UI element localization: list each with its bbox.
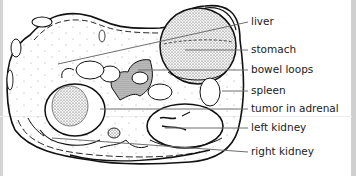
kidney-shape [147, 104, 223, 148]
label-liver: liver [251, 15, 274, 27]
label-tumor-in-adrenal: tumor in adrenal [251, 102, 339, 114]
stomach-shape [160, 8, 236, 84]
label-bowel-loops: bowel loops [251, 63, 313, 75]
label-spleen: spleen [251, 84, 286, 96]
anatomy-figure: liver stomach bowel loops spleen tumor i… [0, 0, 356, 176]
label-right-kidney: right kidney [251, 145, 314, 157]
label-left-kidney: left kidney [251, 121, 306, 133]
label-stomach: stomach [251, 43, 296, 55]
